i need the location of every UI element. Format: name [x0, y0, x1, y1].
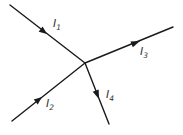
wire-i1 — [10, 5, 85, 63]
label-i3: I3 — [140, 45, 148, 60]
label-i4: I4 — [106, 88, 114, 103]
junction-diagram: I1 I2 I3 I4 — [0, 0, 183, 135]
label-i2: I2 — [46, 97, 54, 112]
wire-i2 — [12, 63, 85, 121]
wire-i3 — [85, 27, 173, 63]
arrow-icon-i4 — [93, 89, 102, 100]
label-i1: I1 — [53, 17, 61, 32]
